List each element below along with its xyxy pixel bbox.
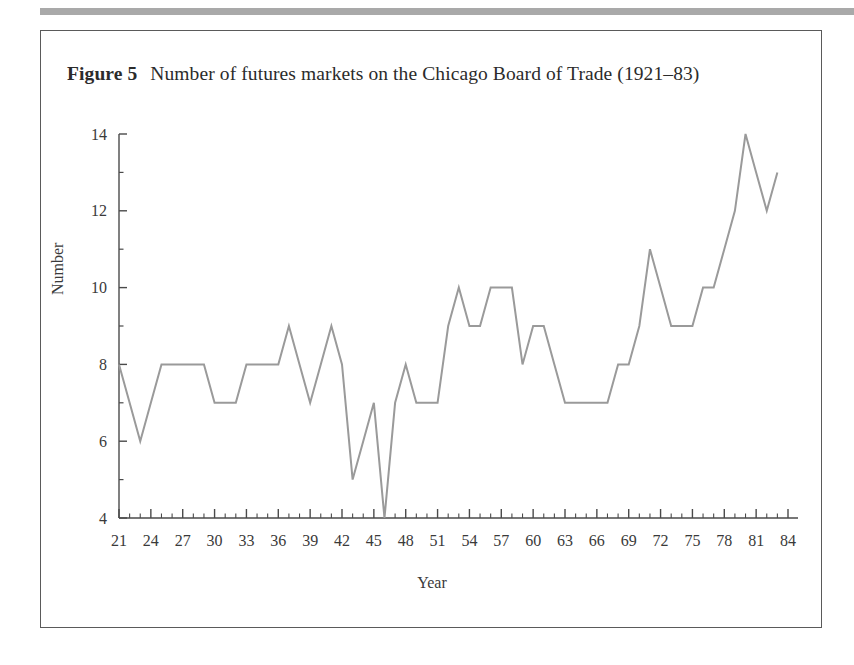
x-tick-label: 45 bbox=[366, 532, 382, 549]
x-tick-label: 66 bbox=[589, 532, 605, 549]
x-tick-label: 27 bbox=[175, 532, 191, 549]
x-tick-label: 42 bbox=[334, 532, 350, 549]
x-tick-label: 39 bbox=[302, 532, 318, 549]
x-tick-label: 30 bbox=[207, 532, 223, 549]
x-tick-label: 78 bbox=[716, 532, 732, 549]
x-tick-label: 24 bbox=[143, 532, 159, 549]
figure-page: Figure 5Number of futures markets on the… bbox=[0, 0, 854, 665]
x-tick-label: 75 bbox=[684, 532, 700, 549]
x-tick-label: 84 bbox=[780, 532, 796, 549]
line-chart-svg: 4681012142124273033363942454851545760636… bbox=[41, 31, 823, 629]
x-tick-label: 63 bbox=[557, 532, 573, 549]
x-tick-label: 33 bbox=[238, 532, 254, 549]
figure-box: Figure 5Number of futures markets on the… bbox=[40, 30, 822, 628]
x-tick-label: 72 bbox=[653, 532, 669, 549]
y-tick-label: 14 bbox=[91, 126, 107, 143]
x-tick-label: 51 bbox=[430, 532, 446, 549]
x-tick-label: 48 bbox=[398, 532, 414, 549]
x-tick-label: 81 bbox=[748, 532, 764, 549]
y-tick-label: 6 bbox=[99, 433, 107, 450]
x-tick-label: 69 bbox=[621, 532, 637, 549]
x-tick-label: 54 bbox=[461, 532, 477, 549]
x-tick-label: 21 bbox=[111, 532, 127, 549]
plot-area: Number Year 4681012142124273033363942454… bbox=[41, 31, 823, 629]
data-series-line bbox=[119, 134, 777, 518]
y-tick-label: 12 bbox=[91, 202, 107, 219]
x-tick-label: 60 bbox=[525, 532, 541, 549]
page-top-rule bbox=[40, 8, 854, 15]
y-tick-label: 10 bbox=[91, 279, 107, 296]
x-tick-label: 57 bbox=[493, 532, 509, 549]
y-tick-label: 8 bbox=[99, 356, 107, 373]
x-tick-label: 36 bbox=[270, 532, 286, 549]
y-tick-label: 4 bbox=[99, 510, 107, 527]
